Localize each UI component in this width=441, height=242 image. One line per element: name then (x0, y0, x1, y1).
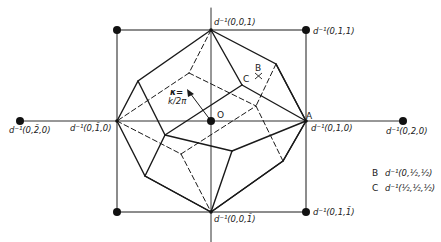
legend: B d⁻¹(0,½,½) C d⁻¹(½,½,½) (372, 168, 435, 193)
label-0-1-0: d⁻¹(0,1,0) (311, 123, 353, 133)
dot-0-2bar-0 (16, 117, 24, 125)
legend-key-b: B (372, 168, 378, 178)
label-0-2bar-0: d⁻¹(0,2̄,0) (9, 124, 51, 135)
label-0-1bar-0: d⁻¹(0,1̄,0) (70, 122, 112, 133)
label-0-0-1bar: d⁻¹(0,0,1̄) (214, 213, 256, 224)
dot-corner-bottom-left (113, 208, 121, 216)
point-b-marker (255, 73, 262, 79)
label-point-c: C (243, 74, 249, 84)
dot-0-0-1 (209, 28, 213, 32)
dot-0-2-0 (399, 117, 407, 125)
dot-0-1-1bar (302, 208, 310, 216)
legend-key-c: C (372, 183, 378, 193)
legend-value-b: d⁻¹(0,½,½) (385, 168, 432, 178)
label-point-a: A (306, 111, 313, 121)
arrowhead-icon (187, 89, 194, 97)
label-0-0-1: d⁻¹(0,0,1) (214, 17, 256, 27)
label-point-b: B (255, 63, 261, 73)
dot-0-1-1 (302, 26, 310, 34)
label-0-1-1bar: d⁻¹(0,1,1̄) (313, 206, 355, 217)
label-origin-o: O (217, 110, 224, 120)
label-0-2-0: d⁻¹(0,2,0) (386, 126, 428, 136)
brillouin-zone-diagram: d⁻¹(0,0,1) d⁻¹(0,1,1) d⁻¹(0,1̄,0) d⁻¹(0,… (0, 0, 441, 242)
dot-origin (207, 117, 215, 125)
dot-0-0-1bar (209, 210, 213, 214)
dot-0-1bar-0 (115, 119, 119, 123)
label-0-1-1: d⁻¹(0,1,1) (313, 26, 355, 36)
kappa-label-line2: k/2π (168, 96, 187, 106)
dot-corner-top-left (113, 26, 121, 34)
legend-value-c: d⁻¹(½,½,½) (385, 183, 435, 193)
